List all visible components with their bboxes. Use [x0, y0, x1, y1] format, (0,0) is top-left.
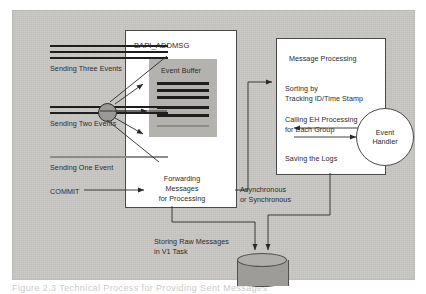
wire-forwarding-to-processing [235, 82, 272, 190]
calling-eh-line-1: Calling EH Processing [285, 115, 358, 124]
raw-message-store-cylinder [237, 253, 287, 289]
storing-line-2: in V1 Task [154, 247, 188, 256]
sorting-line-1: Sorting by [285, 84, 318, 93]
saving-logs-label: Saving the Logs [285, 154, 337, 163]
async-line-2: or Synchronous [240, 195, 291, 204]
event-hub-node [98, 103, 117, 122]
event-handler-line-1: Event [372, 128, 397, 138]
one-event-label: Sending One Event [50, 163, 113, 172]
event-handler-node: Event Handler [356, 108, 414, 166]
forwarding-line-2: Messages [153, 184, 211, 193]
event-handler-line-2: Handler [372, 137, 397, 147]
storing-line-1: Storing Raw Messages [154, 237, 229, 246]
event-buffer-title: Event Buffer [161, 66, 201, 75]
message-processing-title: Message Processing [289, 54, 357, 63]
event-buffer-bar-4 [157, 106, 209, 109]
event-buffer-bar-3 [157, 96, 209, 99]
figure-caption: Figure 2.3 Technical Process for Providi… [12, 283, 412, 294]
calling-eh-line-2: for Each Group [285, 125, 334, 134]
event-buffer-bar-6 [157, 125, 209, 127]
three-events-bar-3 [50, 57, 168, 59]
forwarding-line-3: for Processing [153, 194, 211, 203]
one-event-bar-1 [50, 156, 168, 158]
cylinder-top [237, 253, 287, 267]
event-buffer-bar-1 [157, 82, 209, 85]
commit-label: COMMIT [50, 187, 79, 196]
diagram-canvas: Sending Three Events Sending Two Events … [12, 10, 415, 280]
async-line-1: Asynchronous [240, 185, 286, 194]
event-buffer-bar-2 [157, 89, 209, 92]
sorting-line-2: Tracking ID/Time Stamp [285, 94, 363, 103]
three-events-bar-2 [50, 51, 168, 53]
bapi-addmsg-title: BAPI_ADDMSG [134, 41, 189, 50]
event-buffer-bar-5 [157, 114, 209, 117]
figure-root: Sending Three Events Sending Two Events … [0, 0, 426, 294]
three-events-label: Sending Three Events [50, 64, 122, 73]
forwarding-line-1: Forwarding [153, 174, 211, 183]
